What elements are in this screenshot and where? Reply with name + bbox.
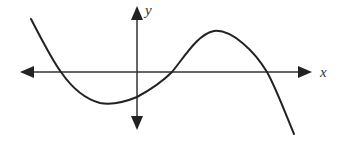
y-axis-up-arrow-icon: [131, 6, 143, 20]
y-axis-label: y: [145, 3, 152, 18]
x-axis-left-arrow-icon: [20, 66, 34, 78]
function-curve: [31, 19, 294, 134]
function-graph: [0, 0, 340, 142]
x-axis-right-arrow-icon: [298, 66, 312, 78]
x-axis-label: x: [320, 65, 327, 80]
y-axis-down-arrow-icon: [131, 116, 143, 130]
